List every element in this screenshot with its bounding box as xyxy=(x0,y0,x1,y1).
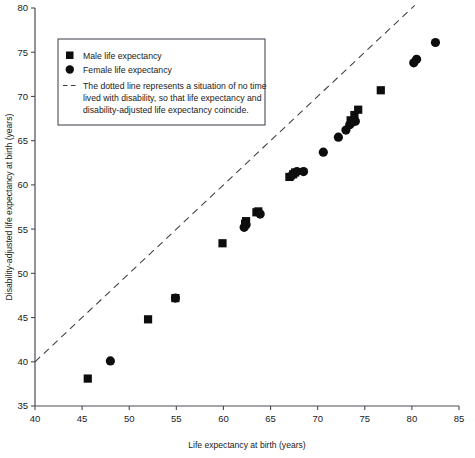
data-point-female xyxy=(241,220,250,229)
legend-square-icon xyxy=(66,52,74,60)
y-tick-label: 75 xyxy=(17,47,28,58)
x-tick-label: 55 xyxy=(171,413,182,424)
chart-svg: 35404550556065707580 4045505560657075808… xyxy=(0,0,475,458)
y-tick-label: 80 xyxy=(17,2,28,13)
data-point-male xyxy=(218,239,226,247)
data-point-female xyxy=(106,356,115,365)
x-tick-label: 40 xyxy=(30,413,41,424)
data-point-male xyxy=(377,86,385,94)
data-point-female xyxy=(171,293,180,302)
y-tick-label: 55 xyxy=(17,224,28,235)
data-point-female xyxy=(412,55,421,64)
series-male-points xyxy=(84,86,385,383)
x-tick-label: 60 xyxy=(218,413,229,424)
data-point-male xyxy=(144,315,152,323)
x-tick-label: 75 xyxy=(359,413,370,424)
y-axis-ticks: 35404550556065707580 xyxy=(17,2,35,411)
data-point-female xyxy=(431,38,440,47)
y-tick-label: 60 xyxy=(17,179,28,190)
legend-label-female: Female life expectancy xyxy=(83,65,173,75)
x-axis-ticks: 40455055606570758085 xyxy=(30,406,465,424)
x-tick-label: 85 xyxy=(454,413,465,424)
y-tick-label: 40 xyxy=(17,356,28,367)
legend-note-line-2: lived with disability, so that life expe… xyxy=(83,93,262,103)
legend-label-male: Male life expectancy xyxy=(83,51,162,61)
legend: Male life expectancy Female life expecta… xyxy=(58,39,267,125)
y-tick-label: 45 xyxy=(17,312,28,323)
y-tick-label: 50 xyxy=(17,268,28,279)
x-tick-label: 70 xyxy=(312,413,323,424)
legend-circle-icon xyxy=(66,65,74,73)
scatter-chart: 35404550556065707580 4045505560657075808… xyxy=(0,0,475,458)
data-point-male xyxy=(354,106,362,114)
x-tick-label: 50 xyxy=(124,413,135,424)
data-point-female xyxy=(299,167,308,176)
y-axis-title: Disability-adjusted life expectancy at b… xyxy=(4,113,14,300)
y-tick-label: 65 xyxy=(17,135,28,146)
legend-note-line-3: disability-adjusted life expectancy coin… xyxy=(83,105,249,115)
y-tick-label: 35 xyxy=(17,400,28,411)
y-tick-label: 70 xyxy=(17,91,28,102)
data-point-male xyxy=(84,374,92,382)
x-tick-label: 65 xyxy=(265,413,276,424)
data-point-female xyxy=(319,148,328,157)
x-axis-title: Life expectancy at birth (years) xyxy=(188,440,306,450)
data-point-female xyxy=(256,209,265,218)
data-point-female xyxy=(334,133,343,142)
data-point-female xyxy=(351,117,360,126)
x-tick-label: 80 xyxy=(407,413,418,424)
x-tick-label: 45 xyxy=(77,413,88,424)
legend-note-line-1: The dotted line represents a situation o… xyxy=(83,81,267,91)
